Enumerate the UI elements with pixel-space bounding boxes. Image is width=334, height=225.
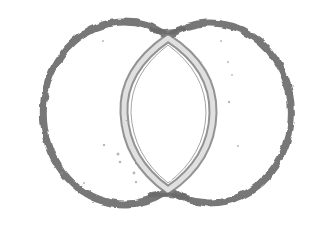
venn-diagram-canvas <box>0 0 334 225</box>
venn-diagram <box>0 0 334 225</box>
intersection-lens <box>124 38 213 190</box>
